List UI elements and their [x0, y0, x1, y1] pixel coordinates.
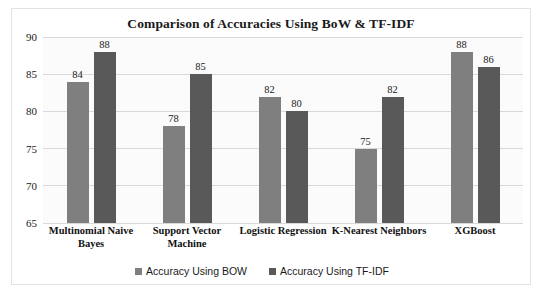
bar: [478, 67, 500, 223]
bars-layer: 84887885828075828886: [43, 37, 523, 223]
y-axis-tick-label: 85: [26, 68, 37, 80]
bar: [190, 74, 212, 223]
legend-item[interactable]: Accuracy Using BOW: [135, 265, 247, 277]
bar-value-label: 86: [483, 54, 494, 65]
bar-value-label: 84: [72, 69, 83, 80]
x-axis-category-label: Multinomial Naive Bayes: [43, 225, 139, 250]
bar-value-label: 75: [360, 136, 371, 147]
chart-title: Comparison of Accuracies Using BoW & TF-…: [12, 16, 530, 32]
chart-legend: Accuracy Using BOWAccuracy Using TF-IDF: [12, 265, 530, 277]
bar-value-label: 78: [168, 113, 179, 124]
y-axis: 657075808590: [12, 37, 40, 223]
bar-value-label: 82: [387, 84, 398, 95]
bar-value-label: 88: [99, 39, 110, 50]
y-axis-tick-label: 80: [26, 105, 37, 117]
legend-swatch-icon: [269, 268, 276, 275]
y-axis-tick-label: 75: [26, 143, 37, 155]
bar: [355, 149, 377, 223]
bar-value-label: 85: [195, 61, 206, 72]
y-axis-tick-label: 70: [26, 180, 37, 192]
bar: [451, 52, 473, 223]
chart-container: Comparison of Accuracies Using BoW & TF-…: [11, 8, 531, 285]
legend-item[interactable]: Accuracy Using TF-IDF: [269, 265, 389, 277]
bar: [67, 82, 89, 223]
x-axis-category-label: Support Vector Machine: [139, 225, 235, 250]
legend-item-label: Accuracy Using BOW: [146, 265, 247, 277]
bar-value-label: 82: [264, 84, 275, 95]
bar: [94, 52, 116, 223]
y-axis-tick-label: 90: [26, 31, 37, 43]
legend-swatch-icon: [135, 268, 142, 275]
y-axis-tick-label: 65: [26, 217, 37, 229]
x-axis: Multinomial Naive BayesSupport Vector Ma…: [43, 225, 523, 259]
bar: [163, 126, 185, 223]
bar-value-label: 80: [291, 98, 302, 109]
x-axis-category-label: Logistic Regression: [235, 225, 331, 238]
bar: [382, 97, 404, 223]
x-axis-category-label: XGBoost: [427, 225, 523, 238]
bar: [286, 111, 308, 223]
x-axis-category-label: K-Nearest Neighbors: [331, 225, 427, 238]
bar: [259, 97, 281, 223]
bar-value-label: 88: [456, 39, 467, 50]
legend-item-label: Accuracy Using TF-IDF: [280, 265, 389, 277]
